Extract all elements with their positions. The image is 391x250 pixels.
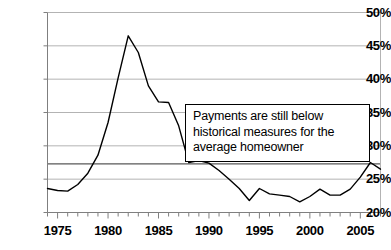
annotation-callout: Payments are still below historical meas… xyxy=(185,104,370,162)
annotation-line-2: historical measures for the xyxy=(193,125,362,141)
x-tick-marks-group xyxy=(48,213,381,219)
annotation-line-3: average homeowner xyxy=(193,140,362,156)
chart-container: 20%25%30%35%40%45%50% 197519801985199019… xyxy=(0,0,391,250)
annotation-line-1: Payments are still below xyxy=(193,109,362,125)
